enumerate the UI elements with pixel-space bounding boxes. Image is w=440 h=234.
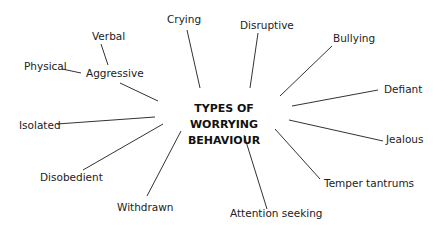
branch-aggressive: Aggressive [86, 67, 144, 79]
connector-isolated [57, 117, 155, 124]
branch-jealous: Jealous [386, 133, 423, 145]
branch-bullying: Bullying [333, 32, 375, 44]
connector-bullying [280, 46, 332, 96]
branch-disruptive: Disruptive [240, 19, 294, 31]
branch-isolated: Isolated [19, 119, 61, 131]
sub-branch-verbal: Verbal [92, 30, 125, 42]
connector-verbal [101, 44, 108, 65]
connector-defiant [292, 90, 378, 106]
central-topic-line2: BEHAVIOUR [160, 133, 288, 149]
central-topic: TYPES OF WORRYING BEHAVIOUR [160, 101, 288, 149]
branch-defiant: Defiant [384, 83, 422, 95]
branch-attention-seeking: Attention seeking [230, 207, 323, 219]
central-topic-line1: TYPES OF WORRYING [160, 101, 288, 133]
branch-withdrawn: Withdrawn [117, 201, 174, 213]
branch-temper-tantrums: Temper tantrums [324, 177, 414, 189]
connector-jealous [289, 120, 383, 141]
mind-map-diagram: TYPES OF WORRYING BEHAVIOUR Crying Disru… [0, 0, 440, 234]
connector-disobedient [83, 124, 163, 170]
branch-crying: Crying [167, 13, 201, 25]
connector-crying [187, 30, 200, 88]
branch-disobedient: Disobedient [40, 171, 103, 183]
connector-aggressive [120, 83, 158, 101]
sub-branch-physical: Physical [24, 60, 67, 72]
connector-disruptive [250, 33, 258, 88]
